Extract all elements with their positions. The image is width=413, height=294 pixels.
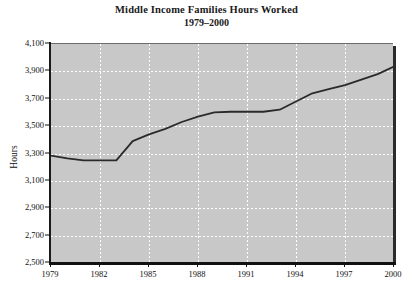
y-tick-label: 4,100 [0, 38, 44, 48]
x-tick-label: 1982 [91, 269, 108, 279]
x-tick-label: 1985 [140, 269, 157, 279]
chart-subtitle: 1979–2000 [0, 16, 413, 29]
y-tick-label: 3,500 [0, 120, 44, 130]
x-tick-mark [148, 262, 149, 267]
x-tick-label: 1997 [336, 269, 353, 279]
chart-title: Middle Income Families Hours Worked [0, 3, 413, 16]
x-tick-label: 1988 [189, 269, 206, 279]
y-tick-mark [45, 125, 50, 126]
x-tick-label: 1994 [287, 269, 304, 279]
chart-figure: Middle Income Families Hours Worked 1979… [0, 0, 413, 294]
y-tick-label: 3,300 [0, 148, 44, 158]
y-axis-line [49, 42, 51, 264]
y-tick-mark [45, 70, 50, 71]
y-axis-label: Hours [9, 127, 19, 187]
chart-title-block: Middle Income Families Hours Worked 1979… [0, 3, 413, 29]
x-tick-mark [197, 262, 198, 267]
y-tick-label: 3,700 [0, 93, 44, 103]
x-tick-label: 1979 [42, 269, 59, 279]
y-tick-label: 2,500 [0, 257, 44, 267]
plot-area [50, 43, 393, 262]
y-tick-mark [45, 97, 50, 98]
x-tick-label: 1991 [238, 269, 255, 279]
data-line [51, 67, 393, 161]
x-tick-mark [50, 262, 51, 267]
y-tick-mark [45, 207, 50, 208]
x-tick-mark [295, 262, 296, 267]
y-tick-label: 2,900 [0, 202, 44, 212]
y-tick-mark [45, 179, 50, 180]
y-tick-mark [45, 152, 50, 153]
y-tick-label: 3,100 [0, 175, 44, 185]
x-tick-mark [99, 262, 100, 267]
y-tick-mark [45, 43, 50, 44]
y-tick-mark [45, 234, 50, 235]
y-tick-label: 3,900 [0, 65, 44, 75]
x-tick-mark [393, 262, 394, 267]
y-tick-label: 2,700 [0, 230, 44, 240]
x-tick-mark [344, 262, 345, 267]
x-tick-label: 2000 [385, 269, 402, 279]
data-series-layer [51, 44, 393, 262]
x-tick-mark [246, 262, 247, 267]
